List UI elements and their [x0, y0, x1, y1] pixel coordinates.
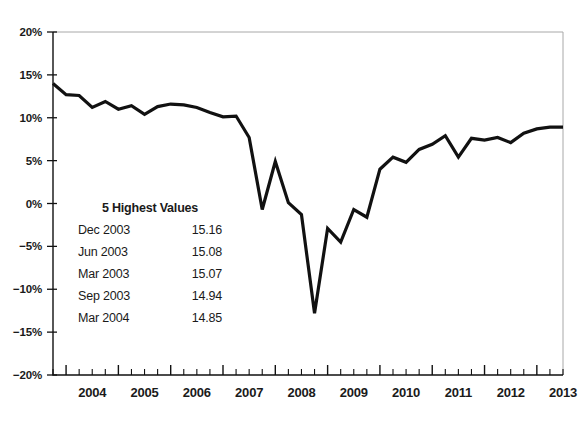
annotation-row-label: Jun 2003 [78, 245, 128, 259]
y-tick-label: 15% [20, 69, 42, 81]
y-tick-label: 10% [20, 112, 42, 124]
annotation-row-value: 15.16 [192, 223, 223, 237]
annotation-row-value: 14.94 [192, 289, 223, 303]
x-tick-label: 2009 [340, 385, 368, 400]
x-tick-label: 2007 [235, 385, 263, 400]
y-tick-label: −10% [13, 283, 42, 295]
annotation-row-value: 15.08 [192, 245, 223, 259]
y-tick-label: −20% [13, 369, 42, 381]
chart-background [0, 0, 580, 424]
annotation-row-label: Mar 2004 [78, 311, 129, 325]
annotation-row-value: 14.85 [192, 311, 223, 325]
y-tick-label: 20% [20, 26, 42, 38]
y-tick-label: 0% [26, 198, 42, 210]
x-tick-label: 2011 [445, 385, 472, 400]
line-chart: 20%15%10%5%0%−5%−10%−15%−20% 20042005200… [0, 0, 580, 424]
y-tick-label: 5% [26, 155, 42, 167]
x-tick-label: 2010 [392, 385, 420, 400]
annotation-row-label: Mar 2003 [78, 267, 129, 281]
annotation-row-label: Dec 2003 [78, 223, 130, 237]
y-tick-label: −5% [19, 240, 42, 252]
x-tick-label: 2006 [183, 385, 211, 400]
x-tick-label: 2004 [78, 385, 107, 400]
annotation-title: 5 Highest Values [102, 201, 198, 215]
x-tick-label: 2008 [287, 385, 315, 400]
x-tick-label: 2005 [130, 385, 158, 400]
x-tick-label: 2012 [497, 385, 525, 400]
x-tick-label: 2013 [549, 385, 577, 400]
y-tick-label: −15% [13, 326, 42, 338]
annotation-row-label: Sep 2003 [78, 289, 130, 303]
chart-container: 20%15%10%5%0%−5%−10%−15%−20% 20042005200… [0, 0, 580, 424]
annotation-row-value: 15.07 [192, 267, 223, 281]
